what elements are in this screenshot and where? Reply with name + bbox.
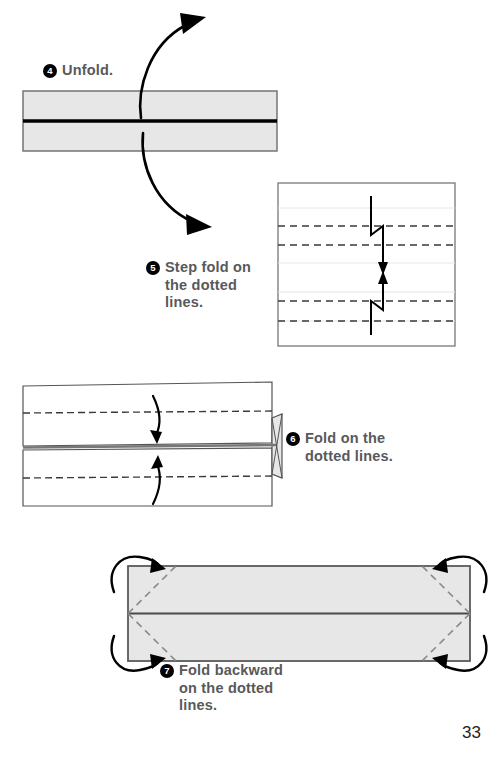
step-5-caption: 5Step fold onthe dottedlines.: [146, 259, 271, 312]
page-number: 33: [462, 723, 481, 743]
step-6-line-1: Fold on the: [305, 430, 385, 446]
step-7-caption: 7Fold backwardon the dottedlines.: [160, 662, 330, 715]
fold-band-upper: [23, 382, 272, 446]
step-5-diagram: [275, 180, 460, 352]
step-7-diagram: [100, 548, 490, 678]
step-6-diagram: [10, 378, 300, 513]
step-7-line-3: lines.: [179, 697, 217, 713]
step-7-label: Fold backwardon the dottedlines.: [179, 662, 319, 715]
step-5-number: 5: [146, 261, 160, 275]
step-5-line-3: lines.: [165, 294, 203, 310]
step-6-label: Fold on thedotted lines.: [305, 430, 423, 465]
step-7-number: 7: [160, 664, 174, 678]
origami-instruction-page: 4Unfold. 5Step fold onthe dottedlines.: [0, 0, 503, 761]
step-7-line-2: on the dotted: [179, 680, 273, 696]
step-7-line-1: Fold backward: [179, 662, 283, 678]
step-6-caption: 6Fold on thedotted lines.: [286, 430, 436, 465]
step-5-line-1: Step fold on: [165, 259, 251, 275]
step-4-diagram: [0, 0, 300, 250]
step-6-line-2: dotted lines.: [305, 448, 393, 464]
step-5-label: Step fold onthe dottedlines.: [165, 259, 265, 312]
step-5-line-2: the dotted: [165, 277, 237, 293]
